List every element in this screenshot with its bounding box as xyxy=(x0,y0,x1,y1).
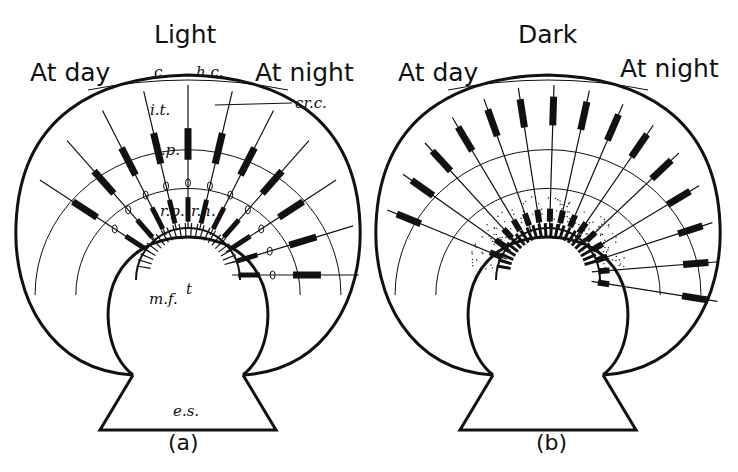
annotation-leader xyxy=(215,103,292,105)
pigment-cell xyxy=(520,99,524,127)
pigment-cell xyxy=(458,127,472,151)
membrane-fiber xyxy=(545,223,546,237)
panel-b-at-night-label: At night xyxy=(620,56,719,81)
pigment-cell xyxy=(488,110,498,137)
retinula-cell xyxy=(560,211,563,224)
panel-b-condition-label: Dark xyxy=(518,22,577,47)
panel-b-dark-adapted-eye xyxy=(376,75,720,430)
pigment-cell xyxy=(279,202,303,218)
membrane-fiber xyxy=(191,223,192,237)
pigment-cell xyxy=(607,115,618,141)
pigment-cell xyxy=(412,180,434,195)
membrane-fiber xyxy=(185,223,186,237)
panel-a-condition-label: Light xyxy=(154,22,216,47)
panel-b-caption: (b) xyxy=(536,432,567,454)
panel-a-light-adapted-eye xyxy=(16,75,360,430)
retinula-cell xyxy=(237,255,258,261)
pigment-cell xyxy=(215,133,222,164)
retinula-cell xyxy=(596,257,607,261)
membrane-fiber xyxy=(195,224,198,238)
retinula-cell xyxy=(137,220,152,237)
pigment-cell xyxy=(432,151,450,171)
retinula-cell xyxy=(126,236,145,248)
pigment-cell xyxy=(678,226,702,234)
cornea-outline xyxy=(376,75,720,375)
pigment-cell xyxy=(262,171,282,193)
retinula-cell xyxy=(224,220,239,237)
pigment-cell xyxy=(683,263,708,265)
retinula-cell xyxy=(490,252,501,256)
annotation-iris-pigment: i.p. xyxy=(156,143,180,158)
panel-b-at-day-label: At day xyxy=(398,60,478,85)
membrane-fiber xyxy=(551,223,552,237)
membrane-fiber xyxy=(137,266,151,268)
pigment-cell xyxy=(652,160,671,178)
retinula-cell xyxy=(537,210,539,223)
retinula-cell xyxy=(592,244,602,250)
retinula-cell xyxy=(496,240,506,247)
pigment-cell xyxy=(94,171,114,193)
pigment-cell xyxy=(631,134,647,157)
retinula-cell xyxy=(232,236,251,248)
membrane-fiber xyxy=(179,224,181,238)
retinula-cell xyxy=(513,220,519,231)
cell-boundary xyxy=(436,188,660,295)
retinula-cell xyxy=(579,223,586,233)
annotation-cornea: c. xyxy=(154,65,167,80)
annotation-retinal-pigment: r.p. xyxy=(160,204,185,219)
panel-a-at-night-label: At night xyxy=(255,60,354,85)
pigment-cell xyxy=(581,102,587,130)
annotation-rhabdom: r.h. xyxy=(191,204,216,219)
pigment-cell xyxy=(289,237,316,245)
panel-a-caption: (a) xyxy=(168,432,199,454)
panel-a-at-day-label: At day xyxy=(30,60,110,85)
pigment-cell xyxy=(73,202,97,218)
annotation-m-f: m.f. xyxy=(149,292,178,307)
annotation-i-t: i.t. xyxy=(150,103,170,118)
membrane-fiber xyxy=(497,266,511,268)
annotation-t: t xyxy=(186,282,192,297)
membrane-fiber xyxy=(555,224,558,238)
membrane-fiber xyxy=(539,224,541,238)
retinula-cell xyxy=(598,282,609,284)
annotation-h-c: h.c. xyxy=(196,65,224,80)
annotation-crystalline-cone: cr.c. xyxy=(295,96,327,111)
annotation-eye-stalk: e.s. xyxy=(173,404,199,419)
pigment-cell xyxy=(668,191,690,205)
eye-stalk xyxy=(460,375,636,430)
pigment-cell xyxy=(682,296,707,300)
pigment-cell xyxy=(553,97,554,126)
